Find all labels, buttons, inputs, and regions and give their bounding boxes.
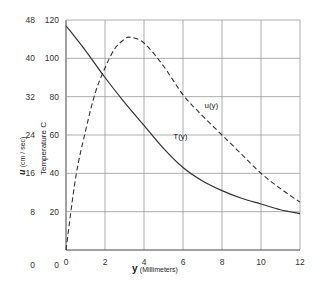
temperature-tick-label: 80 — [50, 92, 60, 102]
u-tick-label: 32 — [26, 92, 36, 102]
series-t-label: T(y) — [173, 132, 188, 141]
x-axis-title-unit: (Millimeters) — [140, 266, 178, 274]
x-tick-label: 6 — [181, 257, 186, 267]
u-tick-label: 40 — [26, 53, 36, 63]
u-tick-label: 48 — [26, 15, 36, 25]
temperature-tick-label: 20 — [50, 207, 60, 217]
chart: 024681012 020406080100120 081624324048 T… — [0, 0, 320, 284]
temperature-tick-label: 120 — [45, 15, 59, 25]
temperature-tick-label: 100 — [45, 53, 59, 63]
u-tick-labels: 081624324048 — [26, 15, 36, 270]
temperature-tick-label: 0 — [54, 260, 59, 270]
x-axis-title-var: y — [132, 263, 138, 274]
x-tick-label: 10 — [256, 257, 266, 267]
temperature-axis-title: Temperature C — [39, 122, 48, 175]
u-tick-label: 0 — [30, 260, 35, 270]
x-tick-label: 0 — [64, 257, 69, 267]
u-axis-title-var: u — [17, 169, 27, 175]
x-tick-label: 8 — [220, 257, 225, 267]
u-axis-title-unit: (cm / sec) — [19, 137, 27, 168]
temperature-tick-label: 40 — [50, 168, 60, 178]
u-tick-label: 24 — [26, 130, 36, 140]
x-tick-labels: 024681012 — [64, 257, 305, 267]
temperature-tick-label: 60 — [50, 130, 60, 140]
x-tick-label: 12 — [295, 257, 305, 267]
x-axis-title: y (Millimeters) — [132, 263, 178, 274]
x-tick-label: 2 — [103, 257, 108, 267]
series-u-label: u(y) — [204, 101, 218, 110]
u-tick-label: 8 — [30, 207, 35, 217]
u-axis-title: u (cm / sec) — [17, 137, 27, 175]
